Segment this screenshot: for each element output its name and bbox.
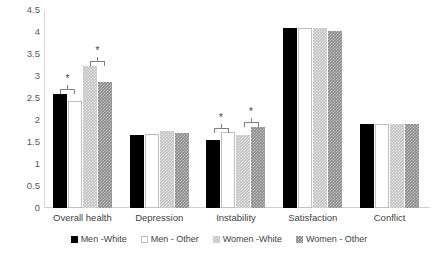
legend-swatch-icon (71, 236, 78, 243)
bar (328, 31, 342, 208)
bar (175, 133, 189, 208)
bracket-leg-right (258, 122, 259, 127)
bracket-leg-right (74, 89, 75, 94)
legend-swatch-icon (296, 236, 303, 243)
bar (221, 132, 235, 208)
legend-swatch-icon (141, 236, 148, 243)
legend-item-label: Men - Other (151, 234, 199, 244)
y-axis-tick-label: 1 (4, 159, 40, 169)
bracket-leg-left (214, 128, 215, 133)
significance-asterisk: * (249, 107, 253, 117)
bar (390, 124, 404, 208)
bar (206, 140, 220, 208)
bar (83, 66, 97, 208)
bracket-leg-left (90, 61, 91, 66)
legend-swatch-icon (213, 236, 220, 243)
x-axis-tick-label: Instability (198, 212, 275, 223)
plot-area (44, 10, 428, 208)
x-axis-tick-label: Conflict (351, 212, 428, 223)
y-axis: 4.543.532.521.510.50 (0, 10, 40, 208)
x-axis-tick-label: Satisfaction (274, 212, 351, 223)
bracket-leg-left (244, 122, 245, 127)
bar-group (121, 10, 198, 208)
y-axis-tick-label: 0.5 (4, 181, 40, 191)
bar (313, 28, 327, 208)
legend-item[interactable]: Women -White (213, 234, 282, 244)
significance-bracket: * (214, 122, 229, 134)
bar (375, 124, 389, 208)
legend-item[interactable]: Women - Other (296, 234, 367, 244)
significance-asterisk: * (65, 74, 69, 84)
significance-bracket: * (244, 116, 259, 128)
bar (130, 135, 144, 208)
y-axis-tick-label: 0 (4, 203, 40, 213)
y-axis-tick-label: 2.5 (4, 93, 40, 103)
bracket-stem (67, 85, 68, 90)
significance-asterisk: * (219, 113, 223, 123)
bracket-leg-left (60, 89, 61, 94)
bar (145, 134, 159, 208)
bar (98, 82, 112, 208)
legend-item-label: Women - Other (306, 234, 367, 244)
bracket-leg-right (228, 128, 229, 133)
y-axis-tick-label: 4 (4, 27, 40, 37)
bar-group (198, 10, 275, 208)
bracket-stem (97, 57, 98, 62)
bar-group (351, 10, 428, 208)
x-axis-tick-label: Overall health (44, 212, 121, 223)
bracket-stem (221, 124, 222, 129)
significance-bracket: * (90, 55, 105, 67)
bar (283, 28, 297, 208)
bar-group-bars (121, 10, 198, 208)
y-axis-tick-label: 3 (4, 71, 40, 81)
bar (251, 127, 265, 208)
significance-asterisk: * (95, 46, 99, 56)
bar (360, 124, 374, 208)
legend-item[interactable]: Men -White (71, 234, 127, 244)
bar (236, 135, 250, 208)
bracket-stem (251, 118, 252, 123)
bar-group (274, 10, 351, 208)
bar (53, 94, 67, 208)
bar (298, 28, 312, 208)
y-axis-tick-label: 1.5 (4, 137, 40, 147)
legend-item-label: Men -White (81, 234, 127, 244)
x-axis-tick-label: Depression (121, 212, 198, 223)
bar (68, 101, 82, 208)
bar-group-bars (198, 10, 275, 208)
bar-chart: 4.543.532.521.510.50 Men -WhiteMen - Oth… (0, 0, 438, 260)
bar (160, 131, 174, 208)
y-axis-tick-label: 3.5 (4, 49, 40, 59)
legend-item-label: Women -White (223, 234, 282, 244)
bar-group-bars (44, 10, 121, 208)
y-axis-tick-label: 4.5 (4, 5, 40, 15)
significance-bracket: * (60, 83, 75, 95)
bar-group (44, 10, 121, 208)
bracket-leg-right (104, 61, 105, 66)
legend-item[interactable]: Men - Other (141, 234, 199, 244)
bar-group-bars (351, 10, 428, 208)
bar-group-bars (274, 10, 351, 208)
chart-legend: Men -WhiteMen - OtherWomen -WhiteWomen -… (0, 234, 438, 244)
bar (405, 124, 419, 208)
y-axis-tick-label: 2 (4, 115, 40, 125)
